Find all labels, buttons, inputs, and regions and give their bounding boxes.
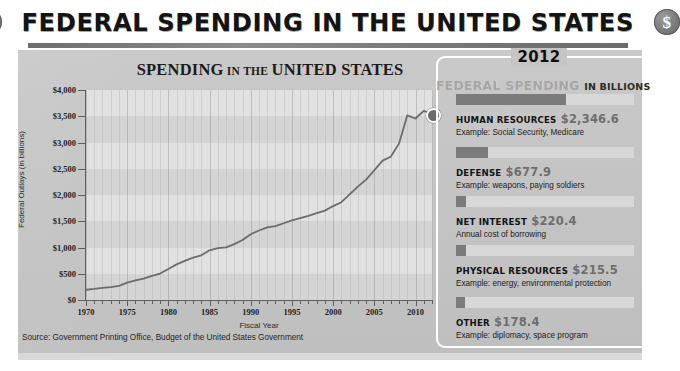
x-axis-tick bbox=[267, 301, 268, 304]
y-axis-tick-label: $500 bbox=[14, 269, 76, 279]
x-axis-tick bbox=[350, 301, 351, 304]
category-heading: HUMAN RESOURCES $2,346.6 bbox=[456, 108, 642, 127]
x-axis-tick bbox=[275, 301, 276, 304]
y-axis-tick-label: $1,000 bbox=[14, 243, 76, 253]
category-heading: NET INTEREST $220.4 bbox=[456, 210, 642, 229]
x-axis-tick bbox=[218, 301, 219, 304]
x-axis-tick bbox=[317, 301, 318, 304]
x-axis-tick bbox=[341, 301, 342, 304]
x-axis-tick bbox=[300, 301, 301, 304]
spending-category: DEFENSE $677.9Example: weapons, paying s… bbox=[456, 147, 642, 190]
x-axis-tick bbox=[325, 301, 326, 304]
x-axis-tick bbox=[119, 301, 120, 304]
x-axis-tick bbox=[399, 301, 400, 304]
x-axis-tick bbox=[284, 301, 285, 304]
x-axis-tick-label: 1970 bbox=[66, 307, 106, 317]
category-example: Example: weapons, paying soldiers bbox=[456, 181, 642, 190]
spending-category: PHYSICAL RESOURCES $215.5Example: energy… bbox=[456, 245, 642, 288]
y-axis-tick-label: $3,500 bbox=[14, 111, 76, 121]
x-axis-tick bbox=[210, 301, 211, 306]
x-axis-tick-label: 1990 bbox=[231, 307, 271, 317]
y-axis-tick bbox=[78, 248, 85, 249]
page-header: $ FEDERAL SPENDING IN THE UNITED STATES … bbox=[0, 0, 656, 45]
y-axis-tick-label: $2,000 bbox=[14, 190, 76, 200]
cutoff-caption bbox=[22, 362, 622, 371]
x-axis-tick bbox=[160, 301, 161, 304]
y-axis-tick bbox=[78, 274, 85, 275]
category-bar-track bbox=[456, 245, 634, 256]
x-axis-tick bbox=[94, 301, 95, 304]
category-value: $178.4 bbox=[490, 315, 540, 329]
x-axis-tick bbox=[234, 301, 235, 304]
category-heading: PHYSICAL RESOURCES $215.5 bbox=[456, 259, 642, 278]
category-name: OTHER bbox=[456, 318, 490, 328]
y-axis-tick-label: $1,500 bbox=[14, 216, 76, 226]
x-axis-tick bbox=[226, 301, 227, 304]
x-axis-tick bbox=[251, 301, 252, 306]
x-axis-tick bbox=[177, 301, 178, 304]
category-bar-track bbox=[456, 147, 634, 158]
y-axis-tick-label: $0 bbox=[14, 295, 76, 305]
y-axis-tick bbox=[78, 169, 85, 170]
x-axis-tick-label: 2005 bbox=[354, 307, 394, 317]
y-axis-tick bbox=[78, 300, 85, 301]
x-axis-tick bbox=[152, 301, 153, 304]
category-bar-fill bbox=[456, 297, 465, 308]
x-axis-tick bbox=[308, 301, 309, 304]
y-axis-tick bbox=[78, 116, 85, 117]
y-axis-tick bbox=[78, 90, 85, 91]
x-axis-tick bbox=[135, 301, 136, 304]
category-name: HUMAN RESOURCES bbox=[456, 115, 557, 125]
callout-subtitle-secondary: IN BILLIONS bbox=[584, 81, 650, 92]
category-heading: DEFENSE $677.9 bbox=[456, 161, 642, 180]
spending-line-series bbox=[86, 90, 432, 300]
callout-subtitle-primary: FEDERAL SPENDING bbox=[436, 78, 580, 93]
callout-subtitle: FEDERAL SPENDING IN BILLIONS bbox=[436, 76, 642, 94]
x-axis-tick bbox=[416, 301, 417, 306]
dollar-coin-icon-right: $ bbox=[654, 9, 680, 35]
category-bar-track bbox=[456, 297, 634, 308]
x-axis-tick bbox=[185, 301, 186, 304]
panel-bottom-strip bbox=[18, 353, 642, 360]
category-value: $677.9 bbox=[501, 165, 551, 179]
x-axis-tick bbox=[391, 301, 392, 304]
category-bar-fill bbox=[456, 94, 566, 105]
x-axis-tick-label: 2010 bbox=[396, 307, 436, 317]
x-axis-tick bbox=[86, 301, 87, 306]
x-axis-tick bbox=[259, 301, 260, 304]
x-axis-tick bbox=[193, 301, 194, 304]
x-axis-tick bbox=[333, 301, 334, 306]
x-axis-tick-label: 1975 bbox=[107, 307, 147, 317]
x-axis-title: Fiscal Year bbox=[86, 321, 432, 330]
x-axis-tick bbox=[144, 301, 145, 304]
category-heading: OTHER $178.4 bbox=[456, 311, 642, 330]
spending-line bbox=[86, 111, 432, 290]
source-note: Source: Government Printing Office, Budg… bbox=[22, 333, 303, 342]
y-axis-tick bbox=[78, 143, 85, 144]
y-axis-tick-label: $2,500 bbox=[14, 164, 76, 174]
x-axis-tick bbox=[383, 301, 384, 304]
x-axis-tick bbox=[407, 301, 408, 304]
category-name: DEFENSE bbox=[456, 168, 501, 178]
x-axis-tick bbox=[358, 301, 359, 304]
spending-category: HUMAN RESOURCES $2,346.6Example: Social … bbox=[456, 94, 642, 137]
callout-year-text: 2012 bbox=[511, 48, 568, 66]
callout-year-badge: 2012 bbox=[436, 57, 642, 75]
x-axis-tick bbox=[292, 301, 293, 306]
category-bar-track bbox=[456, 94, 634, 105]
x-axis-tick bbox=[366, 301, 367, 304]
x-axis-tick-label: 2000 bbox=[313, 307, 353, 317]
y-axis-tick bbox=[78, 221, 85, 222]
category-value: $215.5 bbox=[568, 263, 618, 277]
category-bar-track bbox=[456, 196, 634, 207]
category-value: $2,346.6 bbox=[557, 112, 620, 126]
x-axis-tick bbox=[432, 301, 433, 304]
x-axis-tick-label: 1980 bbox=[148, 307, 188, 317]
y-axis-tick bbox=[78, 195, 85, 196]
category-bar-fill bbox=[456, 147, 488, 158]
page-title: FEDERAL SPENDING IN THE UNITED STATES bbox=[22, 8, 634, 37]
category-example: Example: Social Security, Medicare bbox=[456, 128, 642, 137]
x-axis-tick bbox=[374, 301, 375, 306]
category-name: PHYSICAL RESOURCES bbox=[456, 266, 568, 276]
